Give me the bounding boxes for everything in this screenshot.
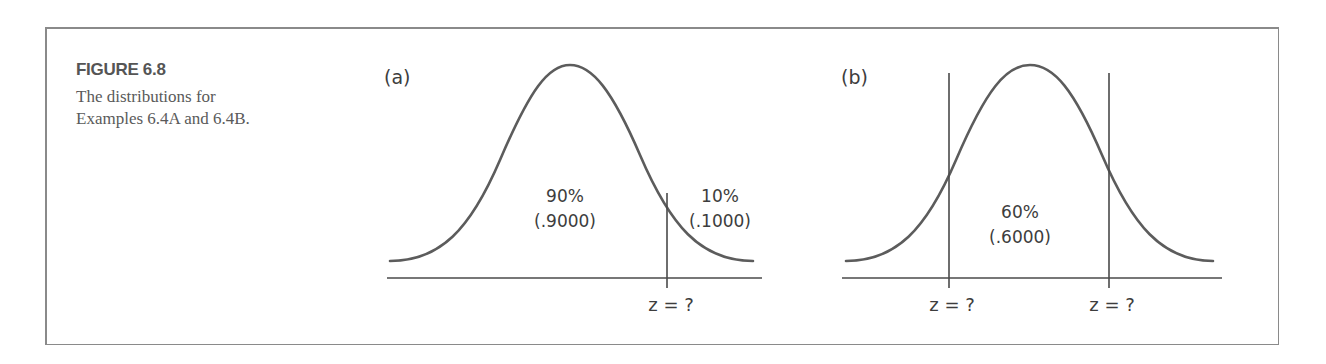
region-percent-a-right: 10%	[701, 186, 739, 206]
z-label-a: z = ?	[648, 294, 694, 315]
panel-b-tag: (b)	[841, 66, 868, 88]
panel-a: (a) 90% (.9000) 10% (.1000) z = ?	[384, 65, 762, 315]
region-proportion-a-right: (.1000)	[689, 211, 751, 231]
panel-b: (b) 60% (.6000) z = ? z = ?	[841, 65, 1222, 315]
region-percent-b: 60%	[1001, 202, 1039, 222]
region-proportion-b: (.6000)	[989, 227, 1051, 247]
panel-a-tag: (a)	[384, 66, 410, 88]
z-label-b-left: z = ?	[929, 294, 975, 315]
z-label-b-right: z = ?	[1089, 294, 1135, 315]
region-proportion-a-left: (.9000)	[534, 211, 596, 231]
normal-distribution-figure: (a) 90% (.9000) 10% (.1000) z = ? (b) 60…	[0, 0, 1326, 364]
region-percent-a-left: 90%	[546, 186, 584, 206]
normal-curve-a	[390, 65, 753, 261]
